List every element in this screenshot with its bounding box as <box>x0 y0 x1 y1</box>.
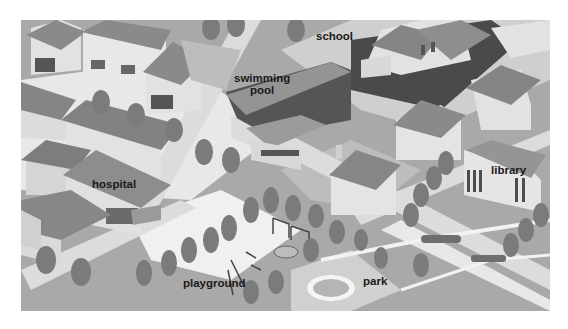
house-top-left-1 <box>26 20 86 75</box>
label-school: school <box>316 30 353 42</box>
town-map: school swimming pool hospital library pl… <box>21 20 550 311</box>
label-hospital: hospital <box>92 178 136 190</box>
map-illustration <box>21 20 550 311</box>
label-swimming-pool-line1: swimming <box>234 72 290 84</box>
label-playground: playground <box>183 277 246 289</box>
label-park: park <box>363 275 387 287</box>
label-library: library <box>491 164 526 176</box>
label-swimming-pool-line2: pool <box>234 84 290 96</box>
label-swimming-pool: swimming pool <box>234 72 290 96</box>
